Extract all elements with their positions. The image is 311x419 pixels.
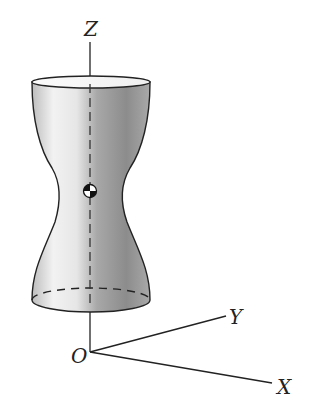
- x-axis: [90, 352, 272, 383]
- top-face: [32, 76, 150, 88]
- y-axis: [90, 316, 226, 352]
- y-axis-label: Y: [229, 305, 244, 329]
- center-of-mass-icon: [84, 185, 97, 198]
- x-axis-label: X: [275, 375, 292, 399]
- origin-label: O: [71, 344, 87, 368]
- hourglass-body-diagram: Z Y X O: [0, 0, 311, 419]
- z-axis-label: Z: [83, 17, 99, 41]
